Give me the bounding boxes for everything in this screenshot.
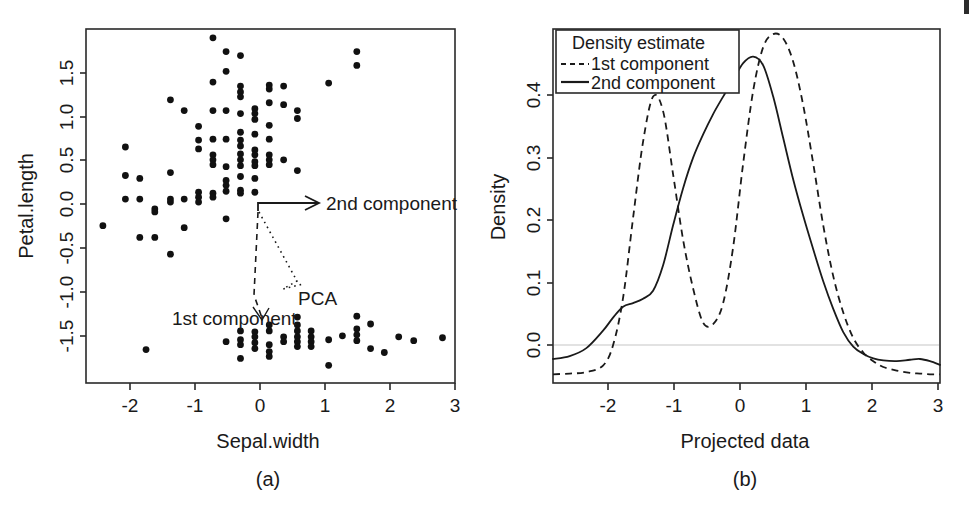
scatter-point bbox=[280, 101, 287, 108]
scatter-point bbox=[210, 79, 217, 86]
scatter-point bbox=[99, 222, 106, 229]
scatter-point bbox=[439, 334, 446, 341]
pca-annotation: PCA bbox=[298, 288, 337, 309]
second-component-arrow bbox=[258, 196, 319, 211]
scatter-point bbox=[237, 341, 244, 348]
scatter-point bbox=[251, 339, 258, 346]
panel-a-x-ticks bbox=[130, 383, 455, 390]
panel-b-y-ticks bbox=[547, 95, 553, 345]
scatter-point bbox=[195, 137, 202, 144]
scatter-point bbox=[167, 96, 174, 103]
scatter-point bbox=[251, 162, 258, 169]
scatter-point bbox=[210, 34, 217, 41]
scatter-point bbox=[266, 122, 273, 129]
scatter-point bbox=[280, 338, 287, 345]
scatter-point bbox=[167, 169, 174, 176]
panel-a: 1.5 1.0 0.5 0.0 -0.5 -1.0 -1.5 Petal.len… bbox=[15, 29, 460, 490]
scatter-point bbox=[237, 52, 244, 59]
scatter-point bbox=[195, 123, 202, 130]
panel-b-xtick-4: 2 bbox=[867, 395, 878, 416]
scatter-point bbox=[151, 209, 158, 216]
scatter-point bbox=[367, 321, 374, 328]
scatter-point bbox=[237, 162, 244, 169]
scatter-point bbox=[237, 93, 244, 100]
scatter-point bbox=[223, 48, 230, 55]
scatter-point bbox=[410, 337, 417, 344]
scatter-point bbox=[353, 313, 360, 320]
legend-title: Density estimate bbox=[572, 33, 705, 53]
scatter-point bbox=[237, 190, 244, 197]
scatter-point bbox=[223, 107, 230, 114]
scatter-point bbox=[223, 338, 230, 345]
panel-b-y-axis-title: Density bbox=[487, 174, 509, 241]
scatter-point bbox=[210, 107, 217, 114]
panel-b-legend[interactable]: Density estimate 1st component 2nd compo… bbox=[556, 30, 739, 93]
scatter-point bbox=[251, 175, 258, 182]
scatter-point bbox=[223, 215, 230, 222]
scatter-point bbox=[353, 331, 360, 338]
scatter-point bbox=[308, 343, 315, 350]
scatter-point bbox=[223, 68, 230, 75]
panel-b-ytick-3: 0.1 bbox=[523, 270, 544, 296]
scatter-point bbox=[266, 99, 273, 106]
scatter-point bbox=[210, 194, 217, 201]
panel-b-xtick-3: 1 bbox=[801, 395, 812, 416]
scatter-point bbox=[237, 173, 244, 180]
panel-b-ytick-2: 0.2 bbox=[523, 207, 544, 233]
legend-entry-0-label: 1st component bbox=[591, 54, 709, 74]
panel-a-x-axis-title: Sepal.width bbox=[216, 430, 319, 452]
scatter-point bbox=[143, 346, 150, 353]
scatter-point bbox=[251, 110, 258, 117]
legend-entry-1-label: 2nd component bbox=[591, 73, 715, 93]
scatter-point bbox=[308, 327, 315, 334]
scatter-point bbox=[325, 362, 332, 369]
scatter-point bbox=[122, 196, 129, 203]
scatter-point bbox=[181, 224, 188, 231]
scatter-point bbox=[266, 161, 273, 168]
scatter-point bbox=[237, 137, 244, 144]
scatter-point bbox=[167, 251, 174, 258]
scatter-point bbox=[251, 131, 258, 138]
panel-a-ytick-1: 1.0 bbox=[56, 104, 77, 130]
scatter-point bbox=[195, 199, 202, 206]
panel-b: 0.4 0.3 0.2 0.1 0.0 Density -2 -1 0 1 2 … bbox=[487, 29, 943, 490]
scatter-point bbox=[210, 161, 217, 168]
panel-a-y-axis-title: Petal.length bbox=[15, 153, 37, 259]
scatter-point bbox=[266, 86, 273, 93]
scatter-point bbox=[353, 62, 360, 69]
panel-b-label: (b) bbox=[733, 468, 757, 490]
figure-svg: 1.5 1.0 0.5 0.0 -0.5 -1.0 -1.5 Petal.len… bbox=[0, 0, 969, 505]
scatter-point bbox=[237, 83, 244, 90]
panel-a-xtick-3: 1 bbox=[320, 395, 331, 416]
scatter-point bbox=[151, 234, 158, 241]
first-component-arrow bbox=[253, 212, 269, 320]
panel-b-xtick-2: 0 bbox=[735, 395, 746, 416]
scatter-point bbox=[136, 234, 143, 241]
panel-a-ytick-4: -0.5 bbox=[56, 232, 77, 265]
scatter-point bbox=[210, 136, 217, 143]
panel-b-ytick-0: 0.4 bbox=[523, 81, 544, 108]
scatter-point bbox=[266, 353, 273, 360]
scatter-point bbox=[294, 167, 301, 174]
scatter-point bbox=[280, 83, 287, 90]
scatter-point bbox=[136, 175, 143, 182]
panel-b-xtick-5: 3 bbox=[933, 395, 944, 416]
panel-a-ytick-5: -1.0 bbox=[56, 276, 77, 309]
panel-b-xtick-0: -2 bbox=[600, 395, 617, 416]
scatter-point bbox=[237, 150, 244, 157]
panel-a-label: (a) bbox=[256, 468, 280, 490]
scatter-point bbox=[122, 144, 129, 151]
scatter-point bbox=[251, 151, 258, 158]
scatter-point bbox=[181, 107, 188, 114]
scatter-point bbox=[167, 199, 174, 206]
scatter-point bbox=[325, 80, 332, 87]
scatter-point bbox=[223, 136, 230, 143]
scatter-point bbox=[294, 115, 301, 122]
scatter-point bbox=[353, 326, 360, 333]
scatter-point bbox=[237, 156, 244, 163]
panel-a-y-ticks bbox=[80, 73, 86, 336]
panel-b-ytick-4: 0.0 bbox=[523, 332, 544, 358]
panel-b-x-axis-title: Projected data bbox=[681, 430, 811, 452]
panel-a-xtick-5: 3 bbox=[450, 395, 461, 416]
scatter-point bbox=[195, 146, 202, 153]
